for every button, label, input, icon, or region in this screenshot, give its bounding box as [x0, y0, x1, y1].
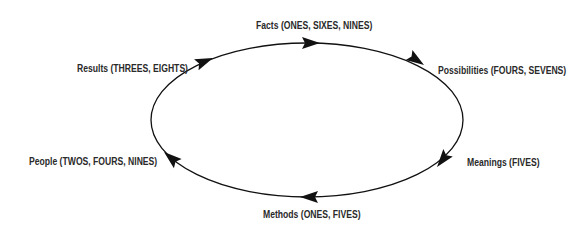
cycle-ellipse: [151, 43, 463, 197]
arrow-icon-top-right: [406, 50, 428, 70]
node-label-methods: Methods (ONES, FIVES): [263, 208, 361, 220]
node-label-possibilities: Possibilities (FOURS, SEVENS): [438, 64, 566, 76]
arrow-icon-top-left: [194, 52, 215, 70]
cycle-diagram: [0, 0, 578, 236]
node-label-results: Results (THREES, EIGHTS): [77, 62, 188, 74]
arrow-icon-bottom-right: [432, 149, 453, 171]
node-label-people: People (TWOS, FOURS, NINES): [29, 155, 157, 167]
node-label-meanings: Meanings (FIVES): [467, 156, 540, 168]
node-label-facts: Facts (ONES, SIXES, NINES): [256, 19, 372, 31]
